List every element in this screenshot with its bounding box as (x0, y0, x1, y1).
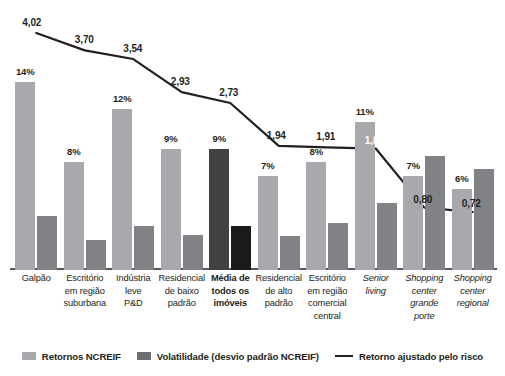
legend-item[interactable]: Retorno ajustado pelo risco (335, 351, 483, 362)
category-label-line: de baixo (158, 285, 207, 298)
legend-item[interactable]: Retornos NCREIF (22, 351, 121, 362)
bar-value-label: 8% (54, 146, 94, 157)
bar-value-label: 7% (393, 160, 433, 171)
category-label-line: regional (449, 297, 498, 310)
legend-label: Volatilidade (desvio padrão NCREIF) (157, 351, 319, 362)
bar-group (452, 2, 494, 270)
category-label-line: de alto (255, 285, 304, 298)
bar-value-label: 9% (151, 133, 191, 144)
chart-legend: Retornos NCREIFVolatilidade (desvio padr… (0, 345, 505, 367)
line-value-label: 1,94 (267, 130, 286, 141)
bar-value-label: 6% (442, 173, 482, 184)
category-label-line: padrão (255, 297, 304, 310)
bar-returns (258, 176, 278, 270)
category-label-line: comercial (303, 297, 352, 310)
legend-label: Retornos NCREIF (42, 351, 121, 362)
chart-container: 14%8%12%9%9%7%8%11%7%6%4,023,703,542,932… (0, 0, 505, 376)
bar-volatility (86, 240, 106, 270)
bar-volatility (328, 223, 348, 270)
category-label-line: Indústria (109, 272, 158, 285)
category-label-line: P&D (109, 297, 158, 310)
category-label-line: leve (109, 285, 158, 298)
bar-value-label: 8% (296, 146, 336, 157)
bar-returns (112, 109, 132, 270)
category-label-line: Residencial (255, 272, 304, 285)
bar-returns (306, 162, 326, 270)
plot-area: 14%8%12%9%9%7%8%11%7%6%4,023,703,542,932… (0, 0, 505, 270)
category-label-line: Escritório (61, 272, 110, 285)
category-label-line: em região (61, 285, 110, 298)
category-label-line: padrão (158, 297, 207, 310)
line-value-label: 3,54 (123, 43, 142, 54)
category-label: IndústrialeveP&D (109, 272, 158, 310)
category-label: Shoppingcenterregional (449, 272, 498, 310)
category-label-line: suburbana (61, 297, 110, 310)
bar-volatility (280, 236, 300, 270)
legend-line-icon (335, 355, 353, 357)
bar-returns (64, 162, 84, 270)
bar-returns (209, 149, 229, 270)
line-value-label: 1,91 (316, 131, 335, 142)
category-label: Residencialde baixopadrão (158, 272, 207, 310)
line-value-label: 0,80 (413, 194, 432, 205)
line-value-label: 2,93 (171, 76, 190, 87)
bar-returns (15, 82, 35, 270)
category-label-line: Shopping (449, 272, 498, 285)
category-label-line: Residencial (158, 272, 207, 285)
category-label-line: central (303, 310, 352, 323)
legend-swatch-icon (22, 352, 36, 360)
category-label-line: Escritório (303, 272, 352, 285)
category-label-line: Shopping (400, 272, 449, 285)
category-label-line: porte (400, 310, 449, 323)
category-label-line: em região (303, 285, 352, 298)
bar-volatility (231, 226, 251, 270)
legend-swatch-icon (137, 352, 151, 360)
category-label-line: grande (400, 297, 449, 310)
category-label: Galpão (12, 272, 61, 285)
bar-value-label: 12% (102, 93, 142, 104)
legend-label: Retorno ajustado pelo risco (359, 351, 483, 362)
line-value-label: 1,89 (365, 135, 384, 146)
category-label-line: Média de (206, 272, 255, 285)
category-label-line: Senior (352, 272, 401, 285)
category-label-line: todos os (206, 285, 255, 298)
line-value-label: 2,73 (219, 87, 238, 98)
category-label: Shoppingcentergrandeporte (400, 272, 449, 322)
line-value-label: 4,02 (22, 17, 41, 28)
bar-volatility (183, 235, 203, 270)
category-label: Média detodos osimóveis (206, 272, 255, 310)
bar-value-label: 7% (248, 160, 288, 171)
category-label-line: Galpão (12, 272, 61, 285)
legend-item[interactable]: Volatilidade (desvio padrão NCREIF) (137, 351, 319, 362)
bar-returns (403, 176, 423, 270)
bar-value-label: 9% (199, 133, 239, 144)
line-value-label: 3,70 (75, 34, 94, 45)
category-label-line: living (352, 285, 401, 298)
bar-volatility (377, 203, 397, 270)
category-label: Escritórioem regiãocomercialcentral (303, 272, 352, 322)
category-label: Residencialde altopadrão (255, 272, 304, 310)
bar-group (15, 2, 57, 270)
bar-volatility (134, 226, 154, 270)
category-label-line: center (449, 285, 498, 298)
category-label-line: imóveis (206, 297, 255, 310)
bar-volatility (37, 216, 57, 270)
bar-value-label: 11% (345, 106, 385, 117)
line-value-label: 0,72 (462, 198, 481, 209)
bar-value-label: 14% (5, 66, 45, 77)
category-axis-labels: GalpãoEscritórioem regiãosuburbanaIndúst… (0, 272, 505, 338)
bar-group (403, 2, 445, 270)
category-label: Seniorliving (352, 272, 401, 297)
bar-returns (161, 149, 181, 270)
category-label: Escritórioem regiãosuburbana (61, 272, 110, 310)
category-label-line: center (400, 285, 449, 298)
